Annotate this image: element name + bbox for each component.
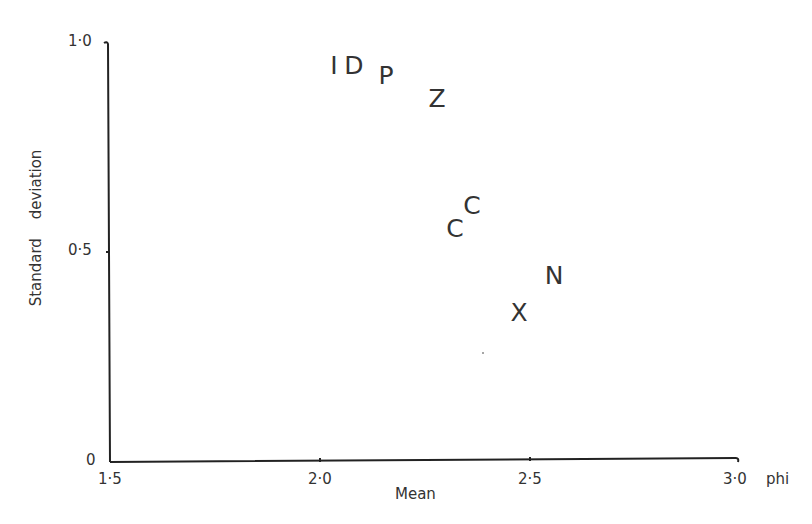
x-tick-label-2-5: 2·5 <box>518 470 542 488</box>
y-tick-label-1-0: 1·0 <box>68 32 92 50</box>
point-X: X <box>510 300 527 325</box>
scatter-chart: 1·0 0·5 0 1·5 2·0 2·5 3·0 phi Mean Stand… <box>0 0 812 524</box>
point-C-1: C <box>446 216 463 241</box>
chart-axes <box>0 0 812 524</box>
point-N: N <box>545 263 564 288</box>
point-I: I <box>330 53 337 78</box>
x-axis-title: Mean <box>395 485 436 503</box>
point-D: D <box>344 53 363 78</box>
speck <box>482 352 484 354</box>
x-tick-label-3-0: 3·0 <box>723 470 747 488</box>
y-tick-label-0: 0 <box>86 451 96 469</box>
x-tick-label-2-0: 2·0 <box>308 470 332 488</box>
point-P: P <box>378 63 393 88</box>
point-Z: Z <box>428 86 445 111</box>
x-axis-line <box>110 458 738 462</box>
y-tick-label-0-5: 0·5 <box>68 241 92 259</box>
x-tick-label-1-5: 1·5 <box>98 470 122 488</box>
point-C-2: C <box>463 193 480 218</box>
x-unit-label: phi <box>766 470 789 488</box>
y-axis-title: Standard deviation <box>27 150 45 307</box>
